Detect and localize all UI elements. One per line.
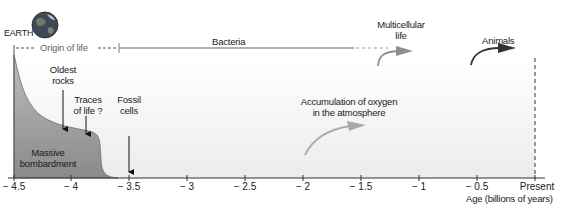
tick-label: − 1: [412, 181, 426, 192]
axis-label: Age (billions of years): [466, 193, 553, 204]
tick-label: − 4.5: [3, 181, 26, 192]
earth-label: EARTH: [4, 28, 33, 39]
tick-label: − 4: [64, 181, 78, 192]
tick-label: − 0.5: [466, 181, 489, 192]
oxygen-accumulation-label: Accumulation of oxygen in the atmosphere: [292, 96, 406, 118]
multicellular-life-label: Multicellular life: [374, 19, 428, 41]
tick-label: − 3: [180, 181, 194, 192]
earth-globe-icon: [32, 12, 58, 38]
fossil-cells-label: Fossil cells: [113, 94, 145, 116]
life-timeline-diagram: EARTH Origin of life Bacteria Multicellu…: [0, 0, 570, 218]
tick-label: − 2: [296, 181, 310, 192]
origin-of-life-label: Origin of life: [40, 42, 88, 53]
tick-label: − 3.5: [118, 181, 141, 192]
traces-of-life-label: Traces of life ?: [71, 94, 105, 116]
oldest-rocks-label: Oldest rocks: [46, 64, 80, 86]
tick-label-present: Present: [520, 181, 554, 192]
tick-label: − 1.5: [350, 181, 373, 192]
bacteria-label: Bacteria: [212, 36, 245, 47]
massive-bombardment-label: Massive bombardment: [14, 147, 82, 169]
tick-label: − 2.5: [234, 181, 257, 192]
animals-label: Animals: [482, 35, 514, 46]
